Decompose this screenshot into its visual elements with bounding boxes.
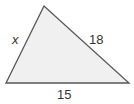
side-label-bottom: 15 bbox=[57, 87, 71, 102]
triangle-shape bbox=[6, 6, 129, 83]
triangle-diagram: x 18 15 bbox=[0, 0, 134, 104]
side-label-left: x bbox=[11, 32, 19, 47]
side-label-right: 18 bbox=[89, 32, 103, 47]
